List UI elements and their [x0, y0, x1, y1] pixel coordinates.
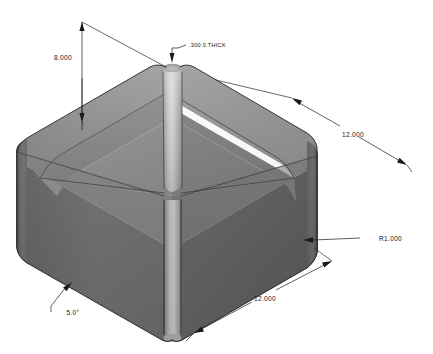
- corner-radius-label: R1.000: [379, 235, 402, 242]
- depth-right-ext-lower: [407, 165, 412, 172]
- width-front-arrow-right: [322, 261, 332, 267]
- draft-angle-label: 5.0°: [66, 309, 79, 316]
- width-front-label: 12.000: [254, 295, 276, 302]
- depth-right-label: 12.000: [342, 131, 364, 138]
- wall-thickness-label: .300 0.THICK: [189, 42, 226, 48]
- depth-right-line-upper: [294, 100, 340, 126]
- dimension-wall-thickness[interactable]: .300 0.THICK: [170, 42, 226, 63]
- corner-radius-leader: [313, 238, 360, 240]
- cad-viewport[interactable]: 8.000 .300 0.THICK 12.000 R1.000: [0, 0, 433, 354]
- draft-angle-leader: [51, 287, 66, 312]
- depth-right-arrow-end: [397, 158, 407, 165]
- dimension-height-leader-top: [82, 22, 166, 67]
- depth-right-arrow-start: [292, 98, 302, 105]
- cad-drawing-canvas: 8.000 .300 0.THICK 12.000 R1.000: [0, 0, 433, 354]
- dimension-height-label: 8.000: [54, 54, 72, 61]
- wall-thickness-leader: [172, 45, 186, 48]
- wall-thickness-arrow: [170, 53, 175, 63]
- depth-right-line-lower: [359, 137, 405, 164]
